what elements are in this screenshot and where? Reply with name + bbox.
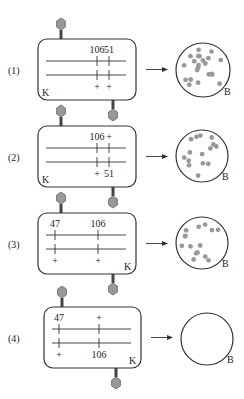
arrow-head-icon [162,241,168,246]
plaque-dot [196,47,201,52]
row-4: (4)47++106KB [8,286,234,389]
row-label: (2) [8,152,20,164]
plaque-dot [196,80,201,85]
phage-tail [112,274,115,283]
plaque-dot [206,56,211,61]
plaque-dot [198,243,203,248]
plaque-dot [210,228,215,233]
plaque-dot [192,59,197,64]
plaque-dot [209,49,214,54]
marker-bottom-label: + [94,168,100,179]
marker-top-label: 47 [54,312,64,323]
plaque-dot [184,228,189,233]
plaque-dot [203,222,208,227]
phage-icon [57,192,66,213]
row-2: (2)106++51KB [8,105,229,208]
plaque-dot [209,135,214,140]
plaque-dot [188,150,193,155]
marker-top-label: 106 [90,131,105,142]
marker-top-label: 106 [90,44,105,55]
phage-icon [57,105,66,126]
phage-icon [57,18,66,39]
plaque-dot [203,61,208,66]
phage-icon [112,368,121,389]
row-label: (4) [8,333,20,345]
phage-head [57,105,66,117]
strain-b-label: B [224,86,231,97]
strain-k-label: K [129,355,137,366]
strain-b-label: B [222,171,229,182]
plaque-dot [214,144,219,149]
strain-b-label: B [222,258,229,269]
phage-tail [112,187,115,196]
plaque-dot [196,224,201,229]
plaque-dot [182,63,187,68]
row-label: (3) [8,239,20,251]
arrow-head-icon [162,154,168,159]
strain-b-label: B [227,354,234,365]
plaque-dot [188,244,193,249]
petri-plate-b [181,313,233,365]
phage-head [57,18,66,30]
phage-head [109,283,118,295]
marker-bottom-label: + [95,255,101,266]
plaque-dot [208,146,213,151]
phage-head [58,286,67,298]
petri-plate-b [176,217,228,269]
plaque-dot [187,163,192,168]
plaque-dot [183,233,188,238]
phage-tail [60,30,63,39]
plaque-dot [194,134,199,139]
plaque-dot [188,77,193,82]
phage-head [109,196,118,208]
phage-icon [109,100,118,121]
strain-k-label: K [42,174,50,185]
plaque-dot [203,254,208,259]
marker-top-label: 106 [91,218,106,229]
phage-head [112,377,121,389]
row-3: (3)47+106+KB [8,192,229,295]
plaque-dot [179,243,184,248]
plaque-dot [209,72,214,77]
plaque-dot [188,54,193,59]
marker-bottom-label: 51 [104,168,114,179]
marker-bottom-label: 106 [92,349,107,360]
marker-bottom-label: + [106,81,112,92]
plaque-dot [197,54,202,59]
strain-k-label: K [42,87,50,98]
phage-complementation-diagram: (1)106+51+KB(2)106++51KB(3)47+106+KB(4)4… [0,0,244,399]
strain-k-label: K [124,261,132,272]
phage-icon [109,274,118,295]
phage-tail [112,100,115,109]
marker-bottom-label: + [52,255,58,266]
marker-top-label: 51 [104,44,114,55]
bacterial-cell-k [38,39,136,100]
plaque-dot [196,63,201,68]
plaque-dot [196,173,201,178]
row-1: (1)106+51+KB [8,18,231,121]
phage-head [109,109,118,121]
plaque-dot [186,158,191,163]
phage-tail [60,204,63,213]
marker-top-label: 47 [50,218,60,229]
phage-tail [60,117,63,126]
marker-top-label: + [106,131,112,142]
plaque-dot [217,81,222,86]
plaque-dot [201,161,206,166]
plaque-dot [195,250,200,255]
petri-plate-b [176,43,230,97]
plaque-dot [200,152,205,157]
phage-icon [109,187,118,208]
plaque-dot [187,82,192,87]
plaque-dot [206,258,211,263]
bacterial-cell-k [38,126,136,187]
marker-bottom-label: + [94,81,100,92]
plaque-dot [182,155,187,160]
arrow-head-icon [162,67,168,72]
phage-icon [58,286,67,307]
row-label: (1) [8,65,20,77]
plaque-dot [183,77,188,82]
plaque-dot [216,227,221,232]
plaque-dot [206,161,211,166]
phage-tail [61,298,64,307]
